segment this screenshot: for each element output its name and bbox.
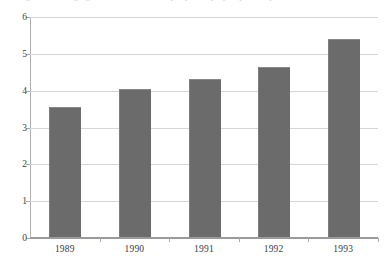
y-axis-label: 0 — [5, 233, 27, 243]
bar-1993 — [328, 39, 360, 237]
bar-1991 — [189, 79, 221, 237]
x-axis-label-1991: 1991 — [174, 244, 234, 254]
y-axis-label: 3 — [5, 123, 27, 133]
bar-1990 — [119, 89, 151, 237]
x-axis-label-1989: 1989 — [35, 244, 95, 254]
x-tick — [239, 238, 240, 242]
gridline-5 — [30, 54, 378, 55]
gridline-6 — [30, 17, 378, 18]
bar-1992 — [258, 67, 290, 237]
x-axis-label-1990: 1990 — [104, 244, 164, 254]
y-axis-label: 1 — [5, 196, 27, 206]
x-tick — [308, 238, 309, 242]
y-axis-label: 4 — [5, 86, 27, 96]
x-tick — [169, 238, 170, 242]
y-axis-label: 5 — [5, 49, 27, 59]
x-tick-end — [378, 238, 379, 242]
chart-figure: Figure 1 Average growth rate of real out… — [0, 0, 389, 266]
bar-1989 — [49, 107, 81, 237]
y-axis-label: 2 — [5, 159, 27, 169]
gridline-0 — [30, 238, 378, 239]
cut-off-caption-text: Figure 1 Average growth rate of real out… — [18, 0, 297, 1]
x-tick — [100, 238, 101, 242]
y-axis-label: 6 — [5, 12, 27, 22]
plot-area — [30, 17, 378, 238]
x-axis-label-1993: 1993 — [313, 244, 373, 254]
x-axis-label-1992: 1992 — [244, 244, 304, 254]
cut-off-caption-strip: Figure 1 Average growth rate of real out… — [0, 0, 389, 9]
